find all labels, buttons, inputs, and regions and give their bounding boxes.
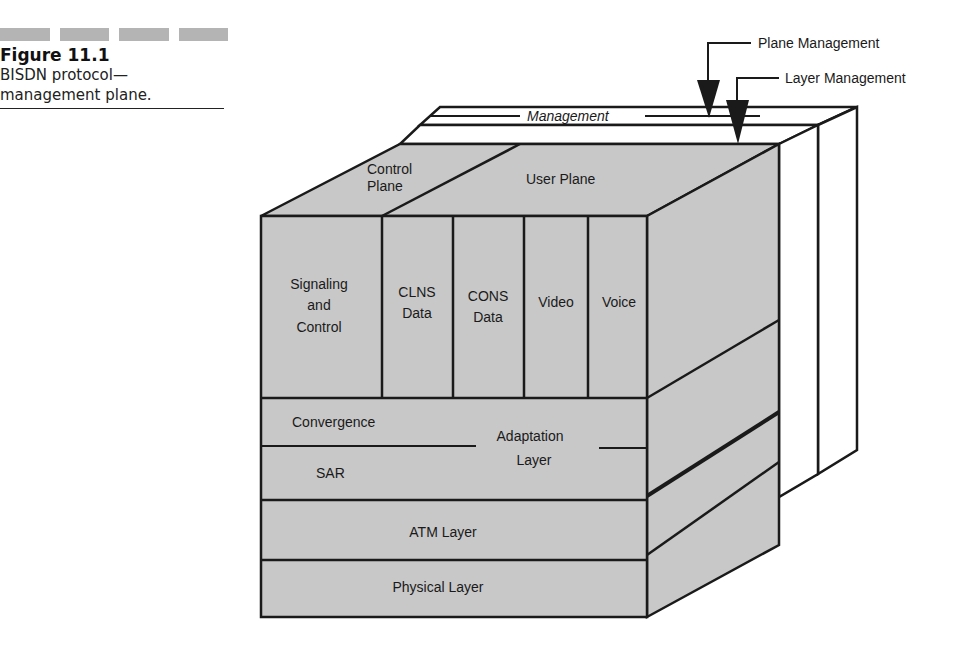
voice-label: Voice (602, 294, 636, 310)
layer-management-label: Layer Management (785, 70, 906, 86)
adaptation-layer-label-1: Adaptation (497, 428, 564, 444)
signaling-label-3: Control (296, 319, 341, 335)
atm-layer-label: ATM Layer (409, 524, 477, 540)
signaling-label-1: Signaling (290, 276, 348, 292)
clns-label-1: CLNS (398, 284, 435, 300)
plane-management-label: Plane Management (758, 35, 880, 51)
control-plane-label-2: Plane (367, 178, 403, 194)
bisdn-cube-diagram: Plane Management Layer Management Manage… (0, 0, 976, 661)
adaptation-layer-label-2: Layer (516, 452, 551, 468)
signaling-label-2: and (307, 297, 330, 313)
management-label: Management (527, 108, 610, 124)
video-label: Video (538, 294, 574, 310)
sar-label: SAR (316, 465, 345, 481)
physical-layer-label: Physical Layer (392, 579, 483, 595)
convergence-label: Convergence (292, 414, 375, 430)
right-face (647, 144, 779, 617)
control-plane-label-1: Control (367, 161, 412, 177)
user-plane-label: User Plane (526, 171, 595, 187)
clns-label-2: Data (402, 305, 432, 321)
cons-label-2: Data (473, 309, 503, 325)
cons-label-1: CONS (468, 288, 508, 304)
